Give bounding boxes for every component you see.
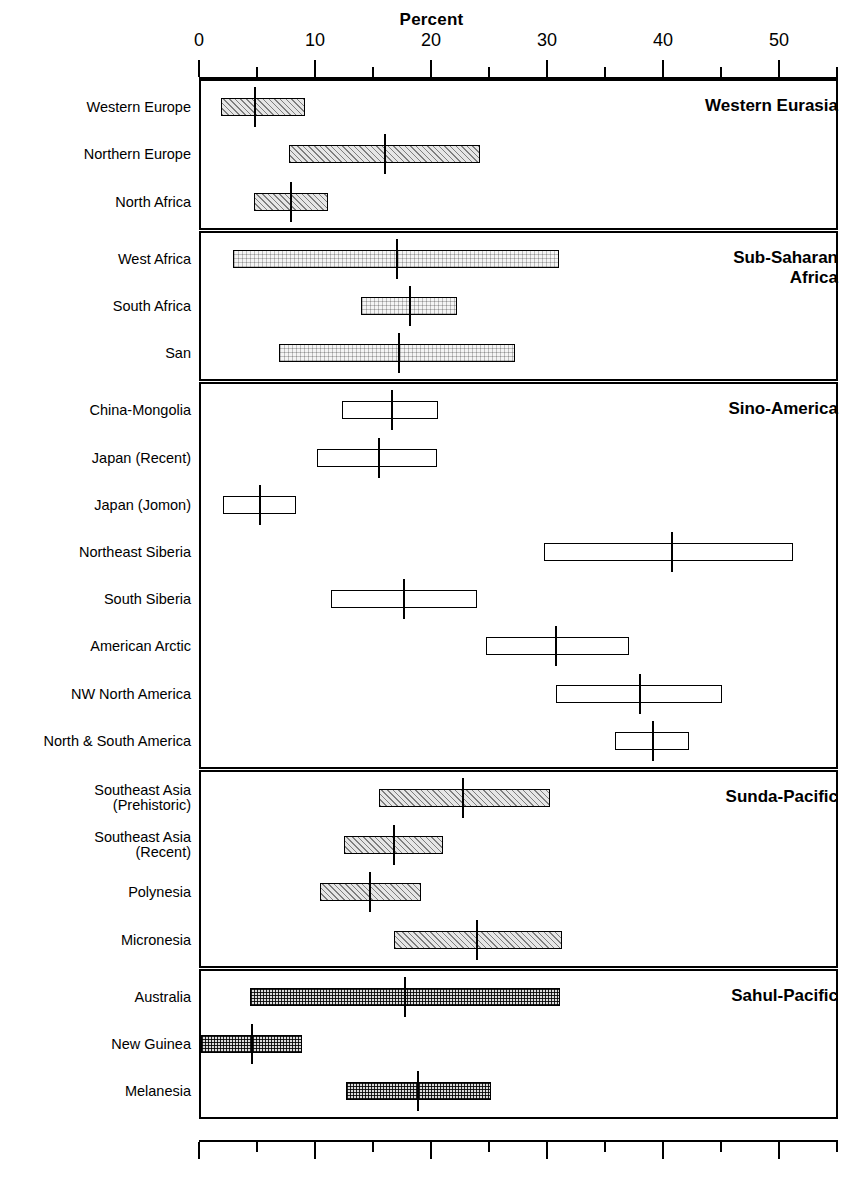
row-label-southeast-asia--recent-: Southeast Asia (Recent) [0, 830, 191, 860]
major-tick-40 [662, 60, 664, 77]
minor-tick-55 [836, 67, 838, 77]
panel-title: Western Eurasia [518, 96, 838, 116]
minor-tick-45 [720, 67, 722, 77]
x-tick-label-30: 30 [537, 30, 557, 51]
x-tick-label-0: 0 [194, 30, 204, 51]
minor-tick-45 [720, 1142, 722, 1152]
row-label-american-arctic: American Arctic [0, 639, 191, 654]
minor-tick-35 [604, 1142, 606, 1152]
panel-sino-america [199, 382, 838, 769]
major-tick-50 [778, 60, 780, 77]
x-tick-label-50: 50 [769, 30, 789, 51]
minor-tick-25 [488, 1142, 490, 1152]
row-label-japan--jomon-: Japan (Jomon) [0, 498, 191, 513]
minor-tick-15 [372, 1142, 374, 1152]
row-label-melanesia: Melanesia [0, 1084, 191, 1099]
minor-tick-35 [604, 67, 606, 77]
panel-title: Sub-Saharan Africa [518, 248, 838, 288]
mean-marker [254, 87, 256, 127]
mean-marker [398, 333, 400, 373]
axis-line [199, 1140, 838, 1142]
row-label-south-siberia: South Siberia [0, 592, 191, 607]
row-label-western-europe: Western Europe [0, 100, 191, 115]
mean-marker [417, 1071, 419, 1111]
row-label-northeast-siberia: Northeast Siberia [0, 545, 191, 560]
row-label-west-africa: West Africa [0, 252, 191, 267]
mean-marker [259, 485, 261, 525]
range-box [486, 637, 630, 655]
mean-marker [462, 778, 464, 818]
x-tick-label-10: 10 [305, 30, 325, 51]
mean-marker [369, 872, 371, 912]
row-label-japan--recent-: Japan (Recent) [0, 451, 191, 466]
panel-title: Sino-America [518, 399, 838, 419]
row-label-north---south-america: North & South America [0, 734, 191, 749]
row-label-micronesia: Micronesia [0, 933, 191, 948]
mean-marker [403, 579, 405, 619]
mean-marker [384, 134, 386, 174]
row-label-nw-north-america: NW North America [0, 687, 191, 702]
mean-marker [396, 239, 398, 279]
row-label-new-guinea: New Guinea [0, 1037, 191, 1052]
mean-marker [404, 977, 406, 1017]
major-tick-10 [314, 60, 316, 77]
row-label-polynesia: Polynesia [0, 885, 191, 900]
range-box [221, 98, 305, 116]
mean-marker [251, 1024, 253, 1064]
major-tick-40 [662, 1142, 664, 1159]
panel-title: Sahul-Pacific [518, 986, 838, 1006]
major-tick-20 [430, 60, 432, 77]
row-label-northern-europe: Northern Europe [0, 147, 191, 162]
major-tick-50 [778, 1142, 780, 1159]
chart-root: Percent 01020304050 Western EurasiaWeste… [0, 0, 863, 1184]
mean-marker [290, 182, 292, 222]
row-label-south-africa: South Africa [0, 299, 191, 314]
major-tick-10 [314, 1142, 316, 1159]
row-label-north-africa: North Africa [0, 195, 191, 210]
x-tick-label-20: 20 [421, 30, 441, 51]
row-label-southeast-asia--prehistoric-: Southeast Asia (Prehistoric) [0, 783, 191, 813]
minor-tick-15 [372, 67, 374, 77]
mean-marker [391, 390, 393, 430]
major-tick-30 [546, 60, 548, 77]
major-tick-0 [198, 60, 200, 77]
major-tick-30 [546, 1142, 548, 1159]
row-label-san: San [0, 346, 191, 361]
minor-tick-25 [488, 67, 490, 77]
mean-marker [555, 626, 557, 666]
mean-marker [378, 438, 380, 478]
row-label-china-mongolia: China-Mongolia [0, 403, 191, 418]
panel-title: Sunda-Pacific [518, 787, 838, 807]
mean-marker [393, 825, 395, 865]
minor-tick-55 [836, 1142, 838, 1152]
chart-title: Percent [0, 10, 863, 30]
mean-marker [639, 674, 641, 714]
minor-tick-5 [256, 1142, 258, 1152]
mean-marker [409, 286, 411, 326]
major-tick-0 [198, 1142, 200, 1159]
mean-marker [476, 920, 478, 960]
row-label-australia: Australia [0, 990, 191, 1005]
mean-marker [652, 721, 654, 761]
range-box [544, 543, 793, 561]
range-box [379, 789, 551, 807]
major-tick-20 [430, 1142, 432, 1159]
x-tick-label-40: 40 [653, 30, 673, 51]
mean-marker [671, 532, 673, 572]
minor-tick-5 [256, 67, 258, 77]
